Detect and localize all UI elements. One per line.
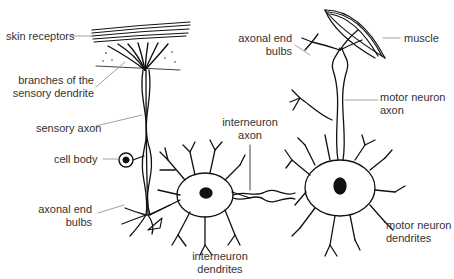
label-cell-body: cell body (54, 153, 97, 166)
label-skin-receptors: skin receptors (6, 30, 74, 43)
label-axonal-end-left-2: bulbs (30, 216, 92, 229)
label-branches-line1: branches of the (8, 74, 94, 87)
sensory-dendrite-branches (108, 43, 168, 70)
label-interneuron-dendrites-1: interneuron (180, 250, 260, 263)
skin-dots (102, 51, 175, 62)
sensory-axon (142, 70, 152, 215)
label-interneuron-dendrites-2: dendrites (180, 263, 260, 276)
sensory-cell-body (119, 153, 144, 167)
muscle (325, 10, 385, 58)
label-motor-dendrites-1: motor neuron (386, 219, 451, 232)
label-motor-axon-1: motor neuron (380, 91, 445, 104)
motor-axon-end-bulbs (302, 30, 362, 50)
label-interneuron-axon-2: axon (215, 129, 285, 142)
label-axonal-end-left-1: axonal end (30, 203, 92, 216)
label-branches-line2: sensory dendrite (8, 87, 94, 100)
label-axonal-end-right-2: bulbs (230, 45, 292, 58)
reflex-arc-diagram: skin receptors branches of the sensory d… (0, 0, 454, 279)
label-motor-dendrites-2: dendrites (386, 232, 431, 245)
interneuron (150, 140, 250, 255)
label-muscle: muscle (404, 32, 439, 45)
label-sensory-axon: sensory axon (36, 122, 101, 135)
label-axonal-end-right-1: axonal end (230, 32, 292, 45)
label-interneuron-axon-1: interneuron (215, 116, 285, 129)
label-motor-axon-2: axon (380, 104, 404, 117)
motor-neuron-axon (290, 48, 348, 160)
